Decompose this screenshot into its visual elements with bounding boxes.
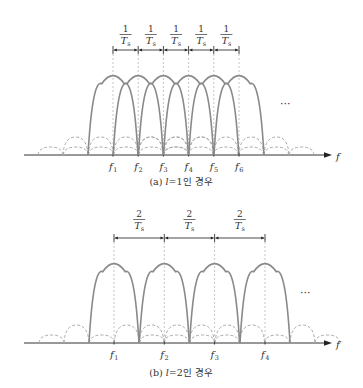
panel-b-caption: (b) l=2인 경우	[149, 367, 213, 378]
arrowhead-icon	[115, 236, 118, 239]
spacing-numerator: 1	[173, 24, 179, 34]
spacing-numerator: 1	[123, 24, 129, 34]
side-lobe	[164, 137, 189, 155]
carrier-label-f6: f6	[234, 161, 243, 174]
carrier-label-f2: f2	[133, 161, 142, 174]
spacing-numerator: 1	[198, 24, 204, 34]
side-lobe	[289, 147, 314, 155]
spacing-numerator: 1	[224, 24, 230, 34]
axis-arrow-icon	[324, 340, 332, 346]
side-lobe	[239, 147, 264, 155]
spacing-denominator: Ts	[184, 220, 194, 233]
spacing-denominator: Ts	[146, 35, 156, 48]
side-lobe	[63, 147, 88, 155]
spacing-numerator: 2	[237, 209, 243, 219]
arrowhead-icon	[134, 48, 137, 51]
spacing-numerator: 1	[148, 24, 154, 34]
side-lobe	[38, 147, 63, 155]
spacing-denominator: Ts	[121, 35, 131, 48]
side-lobe	[214, 137, 239, 155]
side-lobe	[164, 147, 189, 155]
arrowhead-icon	[160, 48, 163, 51]
panel-b-l2: f1f2f3f42Ts2Ts2Ts	[24, 209, 340, 362]
arrowhead-icon	[261, 236, 264, 239]
carrier-label-f1: f1	[108, 161, 117, 174]
carrier-label-f2: f2	[159, 349, 168, 362]
arrowhead-icon	[165, 236, 168, 239]
carrier-label-f4: f4	[260, 349, 269, 362]
side-lobe	[215, 325, 240, 343]
carrier-label-f4: f4	[184, 161, 193, 174]
arrowhead-icon	[139, 48, 142, 51]
arrowhead-icon	[185, 48, 188, 51]
side-lobe	[138, 137, 163, 155]
spacing-denominator: Ts	[134, 220, 144, 233]
spacing-numerator: 2	[136, 209, 142, 219]
side-lobe	[140, 335, 165, 343]
spacing-denominator: Ts	[235, 220, 245, 233]
side-lobe	[290, 325, 315, 343]
arrowhead-icon	[210, 48, 213, 51]
side-lobe	[188, 137, 213, 155]
side-lobe	[164, 335, 189, 343]
side-lobe	[189, 137, 214, 155]
side-lobe	[190, 335, 215, 343]
side-lobe	[139, 325, 164, 343]
side-lobe	[264, 137, 289, 155]
arrowhead-icon	[215, 236, 218, 239]
arrowhead-icon	[161, 236, 164, 239]
side-lobe	[264, 147, 289, 155]
side-lobe	[163, 147, 188, 155]
carrier-label-f5: f5	[209, 161, 218, 174]
side-lobe	[165, 325, 190, 343]
axis-arrow-icon	[324, 152, 332, 158]
side-lobe	[89, 335, 114, 343]
side-lobe	[139, 137, 164, 155]
side-lobe	[63, 137, 88, 155]
spacing-denominator: Ts	[171, 35, 181, 48]
side-lobe	[163, 137, 188, 155]
arrowhead-icon	[164, 48, 167, 51]
arrowhead-icon	[235, 48, 238, 51]
arrowhead-icon	[215, 48, 218, 51]
side-lobe	[114, 147, 139, 155]
side-lobe	[88, 147, 113, 155]
side-lobe	[240, 325, 265, 343]
panel-b-axis-label: f	[335, 339, 342, 350]
side-lobe	[214, 335, 239, 343]
carrier-label-f3: f3	[210, 349, 219, 362]
side-lobe	[113, 137, 138, 155]
side-lobe	[39, 335, 64, 343]
spacing-numerator: 2	[187, 209, 193, 219]
arrowhead-icon	[211, 236, 214, 239]
panel-b-ellipsis: ···	[300, 286, 311, 299]
side-lobe	[139, 147, 164, 155]
side-lobe	[88, 137, 113, 155]
side-lobe	[64, 325, 89, 343]
arrowhead-icon	[114, 48, 117, 51]
panel-a-ellipsis: ···	[280, 97, 291, 110]
side-lobe	[213, 147, 238, 155]
side-lobe	[188, 147, 213, 155]
panel-a-axis-label: f	[335, 151, 342, 162]
ofdm-spectrum-figure: f1f2f3f4f5f61Ts1Ts1Ts1Ts1Ts f1f2f3f42Ts2…	[0, 0, 363, 388]
carrier-label-f1: f1	[109, 349, 118, 362]
side-lobe	[189, 325, 214, 343]
arrowhead-icon	[189, 48, 192, 51]
side-lobe	[239, 137, 264, 155]
side-lobe	[114, 325, 139, 343]
spacing-denominator: Ts	[196, 35, 206, 48]
panel-a-caption: (a) l=1인 경우	[149, 176, 212, 187]
side-lobe	[265, 335, 290, 343]
spacing-denominator: Ts	[221, 35, 231, 48]
carrier-label-f3: f3	[158, 161, 167, 174]
